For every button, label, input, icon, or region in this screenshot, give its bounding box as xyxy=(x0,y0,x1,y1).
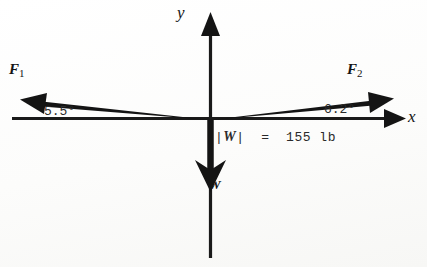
magnitude-variable: W xyxy=(223,129,236,144)
x-axis-arrowhead-icon xyxy=(384,109,406,128)
vector-w-label: W xyxy=(209,178,221,191)
y-axis-label: y xyxy=(177,4,185,21)
vector-f1-label-name: F xyxy=(9,61,19,77)
vector-f2 xyxy=(210,92,394,120)
vector-f2-label-name: F xyxy=(347,61,357,77)
x-axis-label: x xyxy=(408,108,416,125)
vector-f2-label-subscript: 2 xyxy=(357,67,363,79)
weight-magnitude-annotation: |W| = 155 lb xyxy=(215,130,336,144)
magnitude-equals: = xyxy=(261,130,269,145)
vector-f2-arrowhead-icon xyxy=(368,92,394,113)
diagram-canvas xyxy=(0,0,427,267)
vector-f1-label: F1 xyxy=(9,62,25,79)
magnitude-unit: lb xyxy=(319,130,336,145)
vector-f1-arrowhead-icon xyxy=(20,93,47,114)
vector-f1-label-subscript: 1 xyxy=(19,67,25,79)
angle-label-f2: 6.2° xyxy=(324,103,355,116)
y-axis-arrowhead-icon xyxy=(201,12,220,36)
force-diagram-figure: F1 F2 y x W 5.5° 6.2° |W| = 155 lb xyxy=(0,0,427,267)
vector-f2-label: F2 xyxy=(347,62,363,79)
magnitude-value: 155 xyxy=(286,130,311,145)
magnitude-bar-right: | xyxy=(236,130,244,145)
angle-label-f1: 5.5° xyxy=(44,105,75,118)
